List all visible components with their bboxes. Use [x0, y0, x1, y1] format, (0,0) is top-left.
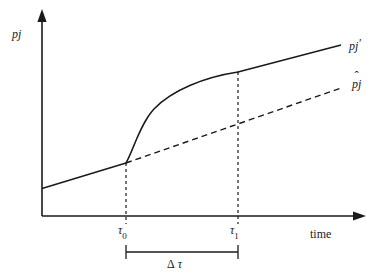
series-pj-prime — [42, 45, 341, 189]
y-axis-label: pj — [12, 28, 21, 40]
pj-prime-tail-segment — [238, 45, 341, 72]
tick-label-tau0-subscript: 0 — [122, 231, 127, 241]
tick-label-tau0: τ0 — [118, 224, 127, 239]
pj-hat-dashed-line — [126, 88, 341, 163]
prime-mark-icon: ′ — [358, 36, 361, 50]
y-axis-arrowhead-icon — [37, 9, 46, 22]
delta-tau-bracket — [126, 245, 238, 259]
axes-group — [37, 9, 366, 221]
reference-lines-group — [126, 72, 238, 224]
diagram-root: pj time pj′ ˆpj τ0 τ1 Δτ — [0, 0, 386, 280]
series-pj-hat — [126, 88, 341, 163]
tick-label-tau1: τ1 — [230, 224, 239, 239]
series-label-pj-hat: ˆpj — [352, 78, 361, 90]
delta-tau-variable: τ — [178, 257, 182, 271]
series-label-pj-prime-text: pj — [349, 39, 358, 53]
series-label-pj-prime: pj′ — [349, 40, 361, 52]
pj-prime-rise-curve — [126, 72, 238, 163]
delta-tau-label: Δτ — [167, 258, 182, 270]
circumflex-hat-icon: ˆ — [352, 69, 361, 82]
pj-hat-wrapper: ˆpj — [352, 78, 361, 90]
x-axis-arrowhead-icon — [353, 211, 366, 220]
pj-prime-baseline-segment — [42, 163, 126, 189]
x-axis-label: time — [310, 228, 331, 240]
tick-label-tau1-subscript: 1 — [234, 231, 239, 241]
delta-symbol-icon: Δ — [167, 257, 175, 271]
